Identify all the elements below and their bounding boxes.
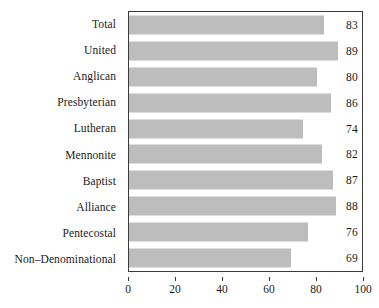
bar-row: 80 — [129, 64, 362, 90]
bar-row: 76 — [129, 219, 362, 245]
bar — [129, 145, 322, 164]
x-axis-tick — [222, 277, 223, 281]
bar-value-label: 86 — [336, 97, 358, 109]
x-axis-tick-label: 40 — [216, 283, 228, 295]
bar-value-label: 83 — [336, 19, 358, 31]
bar — [129, 41, 338, 60]
x-axis-tick — [363, 277, 364, 281]
bar-value-label: 74 — [336, 123, 358, 135]
chart-figure: TotalUnitedAnglicanPresbyterianLutheranM… — [0, 0, 379, 308]
bar-row: 88 — [129, 193, 362, 219]
bar-row: 74 — [129, 116, 362, 142]
bar — [129, 15, 324, 34]
bar-row: 87 — [129, 167, 362, 193]
x-axis-tick-label: 60 — [263, 283, 275, 295]
category-label: Non–Denominational — [0, 246, 122, 272]
bar-value-label: 80 — [336, 71, 358, 83]
category-label: Lutheran — [0, 115, 122, 141]
bar-value-label: 69 — [336, 252, 358, 264]
bar — [129, 171, 333, 190]
plot-area: 83898086748287887669 — [128, 11, 363, 272]
bar-value-label: 88 — [336, 200, 358, 212]
bar — [129, 119, 303, 138]
category-label: Anglican — [0, 63, 122, 89]
bar-value-label: 89 — [336, 45, 358, 57]
x-axis-tick — [269, 277, 270, 281]
x-axis-tick-label: 0 — [125, 283, 131, 295]
x-axis-tick — [128, 277, 129, 281]
bar-row: 83 — [129, 12, 362, 38]
category-label: United — [0, 37, 122, 63]
bar — [129, 67, 317, 86]
bar-row: 69 — [129, 245, 362, 271]
bar-value-label: 82 — [336, 148, 358, 160]
bar — [129, 223, 308, 242]
bar-row: 82 — [129, 142, 362, 168]
category-axis-labels: TotalUnitedAnglicanPresbyterianLutheranM… — [0, 11, 122, 272]
category-label: Total — [0, 11, 122, 37]
x-axis-tick-label: 20 — [169, 283, 181, 295]
bar-value-label: 87 — [336, 174, 358, 186]
category-label: Presbyterian — [0, 89, 122, 115]
bar-row: 86 — [129, 90, 362, 116]
bar — [129, 93, 331, 112]
x-axis-tick-label: 80 — [310, 283, 322, 295]
bar-rows: 83898086748287887669 — [129, 12, 362, 271]
bar — [129, 249, 291, 268]
x-axis-tick — [316, 277, 317, 281]
bar-value-label: 76 — [336, 226, 358, 238]
category-label: Mennonite — [0, 141, 122, 167]
x-axis-tick-label: 100 — [354, 283, 371, 295]
bar — [129, 197, 336, 216]
bar-row: 89 — [129, 38, 362, 64]
category-label: Baptist — [0, 168, 122, 194]
x-axis-tick — [175, 277, 176, 281]
category-label: Alliance — [0, 194, 122, 220]
x-axis: 020406080100 — [128, 277, 363, 278]
category-label: Pentecostal — [0, 220, 122, 246]
